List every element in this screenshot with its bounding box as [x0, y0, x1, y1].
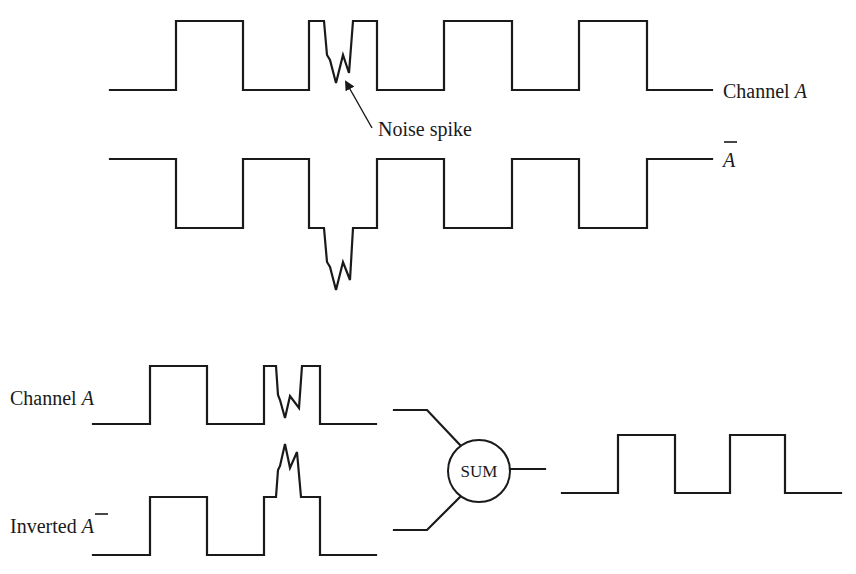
noise-cancellation-diagram: Channel A A Noise spike Channel A Invert…: [0, 0, 856, 574]
noise-spike-arrow-icon: [346, 82, 372, 128]
input-inverted-a-waveform: [93, 444, 376, 555]
output-signal-waveform: [562, 435, 841, 493]
channel-a-bar-label: A: [721, 142, 737, 171]
top-section: Channel A A Noise spike: [110, 21, 808, 290]
svg-text:A: A: [721, 149, 736, 171]
noise-spike-label: Noise spike: [378, 118, 472, 141]
channel-a-waveform: [110, 21, 712, 90]
input-channel-a-waveform: [93, 366, 376, 424]
svg-text:Inverted A: Inverted A: [10, 515, 95, 537]
channel-a-label: Channel A: [723, 80, 808, 102]
sum-block: SUM: [394, 410, 545, 530]
bottom-section: Channel A Inverted A SUM: [10, 366, 841, 555]
input-channel-a-label: Channel A: [10, 387, 95, 409]
channel-a-bar-waveform: [110, 159, 712, 290]
inverted-a-bar-label: Inverted A: [10, 514, 108, 537]
sum-label: SUM: [461, 462, 498, 481]
sum-input-bottom-line: [394, 497, 460, 530]
sum-input-top-line: [394, 410, 460, 445]
